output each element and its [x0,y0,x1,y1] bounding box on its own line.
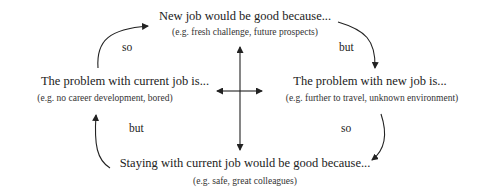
connector-top-right: but [339,41,354,53]
connector-bottom-left: but [129,122,144,134]
left-node-title: The problem with current job is... [30,74,220,89]
top-node-title: New job would be good because... [150,9,340,24]
connector-top-left: so [122,41,132,53]
bottom-node-example: (e.g. safe, great colleagues) [150,176,340,186]
right-node-title: The problem with new job is... [280,74,460,89]
bottom-node-title: Staying with current job would be good b… [100,156,390,171]
arrow-right-to-bottom [372,114,385,160]
top-node-example: (e.g. fresh challenge, future prospects) [150,27,340,37]
connector-bottom-right: so [341,122,351,134]
left-node-example: (e.g. no career development, bored) [10,93,200,103]
right-node-example: (e.g. further to travel, unknown environ… [262,93,482,103]
